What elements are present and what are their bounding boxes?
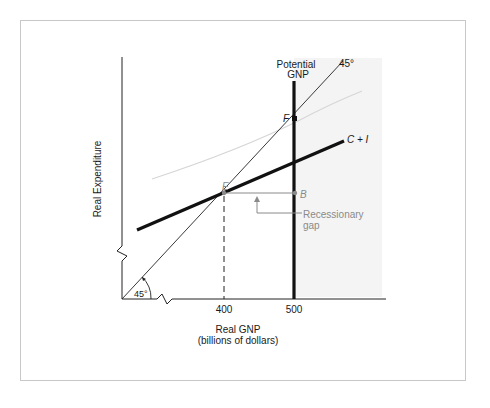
- y-axis-label: Real Expenditure: [92, 140, 103, 217]
- point-b-marker: [293, 191, 297, 195]
- point-f-label: F: [283, 113, 290, 124]
- point-b-label: B: [300, 189, 307, 200]
- c-plus-i-label: C + I: [347, 134, 369, 145]
- x-axis-label-2: (billions of dollars): [198, 335, 279, 346]
- x-tick-500: 500: [286, 304, 303, 315]
- point-f-marker: [292, 116, 297, 121]
- line-45-label: 45°: [339, 58, 354, 69]
- keynesian-cross-diagram: Potential GNP 45° F C + I E B Recessiona…: [0, 0, 490, 408]
- gap-label-2: gap: [303, 220, 320, 231]
- point-e-label: E: [222, 181, 229, 192]
- y-axis: [117, 57, 127, 299]
- potential-gnp-label-2: GNP: [287, 69, 309, 80]
- x-axis-label-1: Real GNP: [215, 324, 260, 335]
- x-tick-400: 400: [216, 304, 233, 315]
- shaded-region: [294, 58, 382, 297]
- angle-label: 45°: [134, 289, 148, 299]
- gap-label-1: Recessionary: [303, 209, 364, 220]
